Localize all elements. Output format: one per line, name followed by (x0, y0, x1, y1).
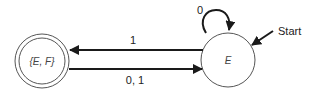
transition-ef-to-e: 0, 1 (69, 69, 202, 86)
transition-e-to-ef-label: 1 (130, 34, 136, 46)
start-label: Start (278, 25, 301, 37)
state-e: E (201, 33, 255, 87)
state-ef: {E, F} (15, 34, 69, 88)
start-arrow (252, 31, 273, 45)
transition-ef-to-e-label: 0, 1 (126, 74, 144, 86)
state-ef-label: {E, F} (29, 56, 55, 67)
transition-e-to-ef: 1 (70, 34, 203, 50)
start-indicator: Start (252, 25, 301, 45)
transition-e-self-loop: 0 (197, 4, 229, 33)
self-loop-arrow (203, 10, 230, 33)
state-diagram: {E, F} E 1 0, 1 0 Start (0, 0, 316, 93)
state-e-label: E (225, 55, 232, 66)
self-loop-label: 0 (197, 4, 203, 16)
